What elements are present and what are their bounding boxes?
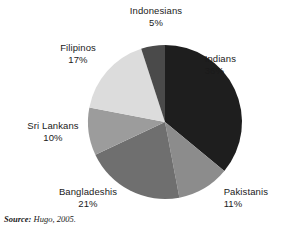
pie-chart: Indonesians 5% Indians 36% Pakistanis 11… [0, 0, 288, 212]
pie-slices-group [0, 0, 288, 212]
pie-label-indonesians: Indonesians 5% [130, 5, 182, 28]
pie-label-bangladeshis: Bangladeshis 21% [59, 186, 117, 209]
pie-label-filipinos: Filipinos 17% [60, 42, 96, 65]
pie-label-indians-value: 36% [205, 65, 236, 77]
pie-label-indians-name: Indians [205, 53, 236, 65]
pie-label-sri-lankans: Sri Lankans 10% [27, 120, 78, 143]
pie-label-pakistanis: Pakistanis 11% [224, 186, 268, 209]
figure: Indonesians 5% Indians 36% Pakistanis 11… [0, 0, 288, 234]
pie-label-bangladeshis-name: Bangladeshis [59, 186, 117, 198]
source-note: Source: Hugo, 2005. [4, 214, 76, 224]
pie-label-sri-lankans-name: Sri Lankans [27, 120, 78, 132]
pie-label-bangladeshis-value: 21% [59, 198, 117, 210]
pie-label-indonesians-value: 5% [130, 17, 182, 29]
pie-label-sri-lankans-value: 10% [27, 132, 78, 144]
pie-label-indonesians-name: Indonesians [130, 5, 182, 17]
pie-label-filipinos-value: 17% [60, 54, 96, 66]
source-label: Source: [4, 214, 31, 224]
pie-label-indians: Indians 36% [205, 53, 236, 76]
pie-label-pakistanis-value: 11% [224, 198, 268, 210]
source-value: Hugo, 2005. [34, 214, 76, 224]
pie-label-filipinos-name: Filipinos [60, 42, 96, 54]
pie-label-pakistanis-name: Pakistanis [224, 186, 268, 198]
